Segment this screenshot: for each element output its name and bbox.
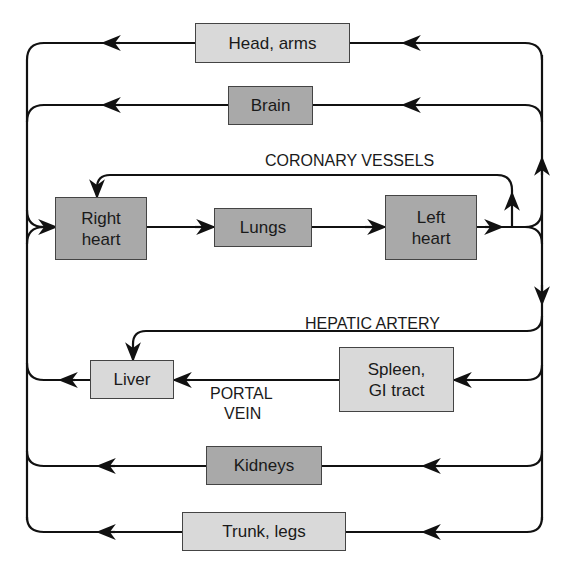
node-liver: Liver [90, 360, 174, 399]
node-label: Liver [114, 369, 151, 390]
node-label: Spleen, GI tract [368, 359, 426, 401]
node-right-heart: Right heart [55, 197, 147, 260]
node-label: Right heart [81, 208, 121, 250]
node-trunk-legs: Trunk, legs [182, 512, 346, 551]
label-hepatic-artery: HEPATIC ARTERY [305, 314, 440, 333]
node-kidneys: Kidneys [206, 446, 322, 485]
node-lungs: Lungs [214, 208, 312, 247]
node-label: Kidneys [234, 455, 294, 476]
node-label: Trunk, legs [222, 521, 305, 542]
node-label: Lungs [240, 217, 286, 238]
label-coronary-vessels: CORONARY VESSELS [265, 151, 434, 170]
node-brain: Brain [228, 86, 313, 125]
label-portal-line1: PORTAL [210, 384, 273, 403]
node-label: Brain [251, 95, 291, 116]
node-spleen-gi: Spleen, GI tract [339, 347, 454, 412]
node-label: Head, arms [229, 33, 317, 54]
node-head-arms: Head, arms [195, 23, 350, 63]
node-left-heart: Left heart [385, 195, 477, 260]
node-label: Left heart [412, 207, 451, 249]
label-portal-line2: VEIN [224, 404, 261, 423]
